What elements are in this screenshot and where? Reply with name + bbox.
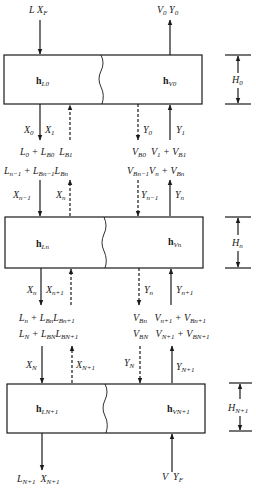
flow-row-LN: LN + LBNLBN+1 [19,329,78,342]
phase-divider-n [102,217,106,268]
xn-1-label: Xn−1 [13,190,31,203]
flow-row-VBn-1: VBn−1Vn + VBn [127,166,184,179]
stage-n-height-label: Hn [232,238,243,251]
stage-n-liquid-enthalpy: hLn [36,239,49,252]
xn1-label: Xn+1 [46,285,64,298]
yn-1-label: Yn−1 [141,190,158,203]
stage-N1-vapor-enthalpy: hVN+1 [167,404,190,417]
liquid-feed-label: L XF [29,5,47,18]
yN-label: YN [124,358,134,371]
phase-divider-0 [99,55,103,104]
vapor-out-label: V0 Y0 [157,5,178,18]
yN1-label: YN+1 [176,362,194,375]
flow-row-Ln-1: Ln−1 + LBn−1LBn [4,166,68,179]
stage-N1-height-label: HN+1 [228,403,248,416]
xN1-label: XN+1 [76,360,95,373]
yn-label: Yn [175,190,184,203]
flow-row-VB0: VB0 V1 + VB1 [132,147,186,160]
vapor-feed-label: V YF [162,472,183,485]
flow-row-VBN: VBN VN+1 + VBN+1 [133,329,210,342]
yn1-label: Yn+1 [176,285,193,298]
y1-label: Y1 [176,125,185,138]
flow-row-VBn: VBn Vn+1 + VBn+1 [133,313,206,326]
liquid-out-label: LN+1 XN+1 [17,474,59,487]
xn-below-label: Xn [27,285,37,298]
stage-0-liquid-enthalpy: hL0 [36,76,49,89]
phase-divider-N1 [103,384,107,433]
stage-n-vapor-enthalpy: hVn [168,237,181,250]
xN-label: XN [26,360,37,373]
x0-label: X0 [24,125,34,138]
y0-label: Y0 [143,125,152,138]
stage-N1-liquid-enthalpy: hLN+1 [36,404,58,417]
flow-row-Ln: Ln + LBnLBn+1 [19,313,75,326]
stage-0-height-label: H0 [232,75,243,88]
xn-label: Xn [56,190,66,203]
x1-label: X1 [45,125,55,138]
yn-below-label: Yn [144,285,153,298]
flow-row-L0: L0 + LB0 LB1 [20,147,73,160]
stage-0-vapor-enthalpy: hV0 [163,76,176,89]
